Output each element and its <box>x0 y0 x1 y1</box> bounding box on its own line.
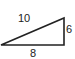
right-triangle <box>0 0 75 59</box>
base-label: 8 <box>30 48 36 59</box>
vertical-leg-label: 6 <box>66 24 72 35</box>
hypotenuse-label: 10 <box>18 13 30 24</box>
